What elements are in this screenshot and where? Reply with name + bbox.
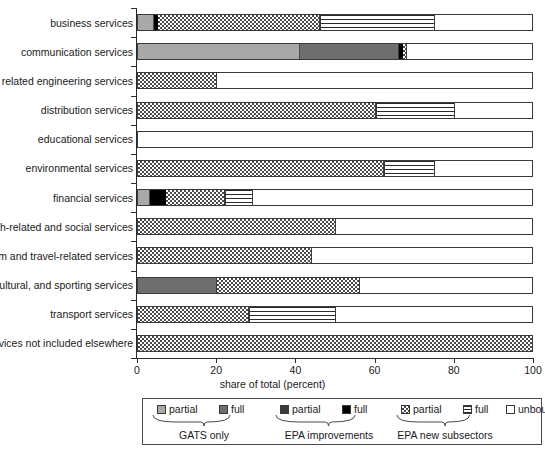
x-tick-label: 80	[448, 364, 460, 376]
category-label: distribution services	[0, 104, 133, 116]
legend-label: partial	[169, 403, 198, 415]
y-tick	[131, 329, 136, 330]
y-tick	[131, 96, 136, 97]
x-tick	[375, 359, 376, 363]
bar-segment-unbound	[253, 190, 533, 205]
bar	[137, 335, 533, 352]
category-label: tourism and travel-related services	[0, 250, 133, 262]
legend-label: full	[231, 403, 244, 415]
legend-group-label: GATS only	[179, 429, 229, 441]
bar	[137, 102, 533, 119]
x-tick	[533, 359, 534, 363]
bar-segment-gats-full	[300, 44, 399, 59]
legend: partialfullpartialfullpartialfullunbound…	[142, 398, 542, 445]
y-tick	[131, 8, 136, 9]
legend-label: full	[354, 403, 367, 415]
bar	[137, 72, 533, 89]
legend-label: full	[475, 403, 488, 415]
legend-entry-epa-imp-full[interactable]: full	[342, 403, 367, 415]
legend-label: partial	[292, 403, 321, 415]
y-tick	[131, 300, 136, 301]
horizontal-stacked-bar-chart: business servicescommunication servicesc…	[0, 0, 545, 451]
bar-segment-epa-new-partial	[166, 190, 225, 205]
bar-segment-gats-partial	[138, 44, 300, 59]
x-tick	[216, 359, 217, 363]
category-label: construction and related engineering ser…	[0, 75, 133, 87]
legend-swatch-unbound-icon	[506, 405, 515, 414]
legend-swatch-epa-imp-partial-icon	[280, 405, 289, 414]
bar-segment-unbound	[407, 44, 533, 59]
bar-segment-unbound	[138, 132, 533, 147]
legend-entry-gats-partial[interactable]: partial	[157, 403, 198, 415]
category-label: other services not included elsewhere	[0, 337, 133, 349]
bar-segment-epa-new-full	[225, 190, 253, 205]
legend-entry-epa-imp-partial[interactable]: partial	[280, 403, 321, 415]
bar-segment-epa-new-full	[384, 161, 435, 176]
legend-swatch-epa-new-full-icon	[463, 405, 472, 414]
bar-segment-unbound	[455, 103, 533, 118]
category-label: communication services	[0, 46, 133, 58]
category-label: financial services	[0, 192, 133, 204]
legend-entry-epa-new-full[interactable]: full	[463, 403, 488, 415]
legend-entry-unbound[interactable]: unbound	[506, 403, 545, 415]
bar	[137, 131, 533, 148]
x-tick	[137, 359, 138, 363]
x-tick	[454, 359, 455, 363]
category-label: business services	[0, 17, 133, 29]
y-tick	[131, 358, 136, 359]
bar	[137, 14, 533, 31]
y-tick	[131, 271, 136, 272]
bar-segment-unbound	[435, 161, 533, 176]
y-tick	[131, 125, 136, 126]
y-tick	[131, 241, 136, 242]
legend-label: unbound	[518, 403, 545, 415]
legend-entry-epa-new-partial[interactable]: partial	[401, 403, 442, 415]
y-tick	[131, 66, 136, 67]
bar	[137, 43, 533, 60]
x-tick-label: 0	[134, 364, 140, 376]
x-axis-line	[136, 358, 534, 359]
bar	[137, 306, 533, 323]
bar-segment-gats-partial	[138, 190, 150, 205]
y-tick	[131, 183, 136, 184]
y-tick	[131, 154, 136, 155]
x-tick-label: 100	[524, 364, 542, 376]
category-label: educational services	[0, 133, 133, 145]
y-tick	[131, 212, 136, 213]
bar	[137, 247, 533, 264]
x-tick	[295, 359, 296, 363]
bar-segment-epa-new-full	[320, 15, 435, 30]
bar-segment-gats-partial	[138, 15, 154, 30]
bar-segment-epa-new-partial	[138, 161, 384, 176]
category-label: environmental services	[0, 162, 133, 174]
bar-segment-epa-new-partial	[158, 15, 320, 30]
x-tick-label: 60	[369, 364, 381, 376]
bar	[137, 218, 533, 235]
x-tick-label: 40	[290, 364, 302, 376]
y-tick	[131, 37, 136, 38]
bar-segment-unbound	[360, 278, 533, 293]
legend-swatch-epa-imp-full-icon	[342, 405, 351, 414]
bar-segment-epa-new-partial	[138, 248, 312, 263]
legend-entry-gats-full[interactable]: full	[219, 403, 244, 415]
legend-label: partial	[413, 403, 442, 415]
bar	[137, 277, 533, 294]
bar-segment-epa-new-partial	[138, 73, 217, 88]
category-label: health-related and social services	[0, 221, 133, 233]
bar-segment-unbound	[336, 219, 533, 234]
legend-swatch-gats-partial-icon	[157, 405, 166, 414]
bar-segment-unbound	[312, 248, 533, 263]
bar-segment-epa-new-full	[376, 103, 455, 118]
bar	[137, 160, 533, 177]
bar-segment-unbound	[336, 307, 533, 322]
bar-segment-epa-imp-full	[150, 190, 166, 205]
x-axis-title: share of total (percent)	[0, 378, 545, 390]
bar	[137, 189, 533, 206]
category-label: recreational, cultural, and sporting ser…	[0, 279, 133, 291]
category-label: transport services	[0, 308, 133, 320]
bar-segment-gats-full	[138, 278, 217, 293]
x-tick-label: 20	[210, 364, 222, 376]
bar-segment-unbound	[435, 15, 533, 30]
bar-segment-epa-new-partial	[217, 278, 360, 293]
bar-segment-epa-new-partial	[138, 307, 249, 322]
